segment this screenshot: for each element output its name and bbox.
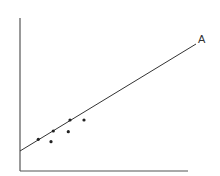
scatter-chart: A bbox=[0, 0, 220, 176]
data-point bbox=[68, 118, 71, 121]
data-point bbox=[37, 138, 40, 141]
data-point bbox=[52, 129, 55, 132]
data-point bbox=[82, 118, 85, 121]
data-points bbox=[37, 118, 86, 143]
data-point bbox=[49, 140, 52, 143]
line-label-a: A bbox=[198, 33, 206, 45]
trend-line-a bbox=[20, 44, 196, 151]
data-point bbox=[67, 130, 70, 133]
